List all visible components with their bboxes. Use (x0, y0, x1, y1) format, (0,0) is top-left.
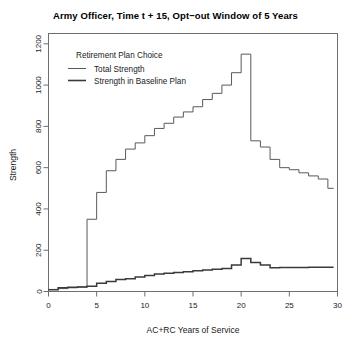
x-tick-label: 15 (189, 301, 198, 310)
y-tick-label: 800 (35, 119, 44, 133)
y-axis-ticks: 020040060080010001200 (35, 34, 49, 293)
legend-title: Retirement Plan Choice (76, 51, 163, 60)
x-tick-label: 25 (285, 301, 294, 310)
chart-plot-area: 020040060080010001200 051015202530 Stren… (0, 0, 351, 349)
x-axis-ticks: 051015202530 (46, 292, 342, 310)
y-tick-label: 0 (35, 289, 44, 294)
x-tick-label: 20 (237, 301, 246, 310)
series-line-total-strength (49, 54, 334, 289)
y-tick-label: 400 (35, 202, 44, 216)
series-line-baseline-plan (49, 258, 334, 289)
chart-figure: Army Officer, Time t + 15, Opt−out Windo… (0, 0, 351, 349)
plot-border (49, 34, 338, 292)
y-axis-title: Strength (8, 149, 18, 181)
x-tick-label: 10 (140, 301, 149, 310)
legend-label-total-strength: Total Strength (94, 65, 145, 74)
y-tick-label: 200 (35, 243, 44, 257)
legend-label-baseline-plan: Strength in Baseline Plan (94, 77, 186, 86)
chart-legend: Retirement Plan Choice Total Strength St… (68, 51, 186, 86)
y-tick-label: 600 (35, 160, 44, 174)
x-tick-label: 0 (46, 301, 51, 310)
y-tick-label: 1200 (35, 34, 44, 52)
y-tick-label: 1000 (35, 76, 44, 94)
x-tick-label: 30 (333, 301, 342, 310)
x-tick-label: 5 (94, 301, 99, 310)
x-axis-title: AC+RC Years of Service (147, 325, 240, 335)
